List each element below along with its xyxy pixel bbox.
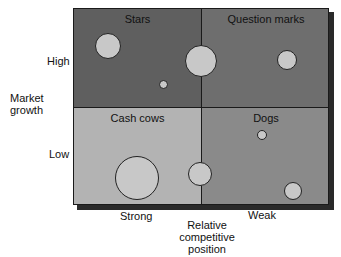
quadrant-dogs: Dogs [202, 108, 329, 205]
business-unit-circle [159, 80, 168, 89]
business-unit-circle [185, 45, 217, 77]
business-unit-circle [277, 50, 297, 70]
x-axis-title: Relative competitive position [172, 219, 242, 255]
x-axis-title-line1: Relative [172, 219, 242, 231]
y-axis-title-line1: Market [10, 92, 44, 104]
y-axis-title: Market growth [10, 92, 44, 116]
x-axis-title-line2: competitive [172, 231, 242, 243]
horizontal-divider [74, 107, 328, 108]
quadrant-label-question-marks: Question marks [202, 13, 329, 25]
business-unit-circle [188, 162, 212, 186]
business-unit-circle [284, 182, 302, 200]
y-axis-title-line2: growth [10, 104, 44, 116]
y-axis-high-label: High [47, 55, 70, 67]
quadrant-label-cash-cows: Cash cows [74, 112, 201, 124]
quadrant-question-marks: Question marks [202, 9, 329, 107]
business-unit-circle [95, 33, 121, 59]
y-axis-low-label: Low [49, 148, 69, 160]
quadrant-label-stars: Stars [74, 13, 201, 25]
quadrant-label-dogs: Dogs [202, 112, 329, 124]
x-axis-strong-label: Strong [120, 210, 152, 222]
business-unit-circle [115, 156, 159, 200]
quadrant-stars: Stars [74, 9, 201, 107]
x-axis-title-line3: position [172, 243, 242, 255]
business-unit-circle [257, 130, 267, 140]
x-axis-weak-label: Weak [248, 209, 276, 221]
